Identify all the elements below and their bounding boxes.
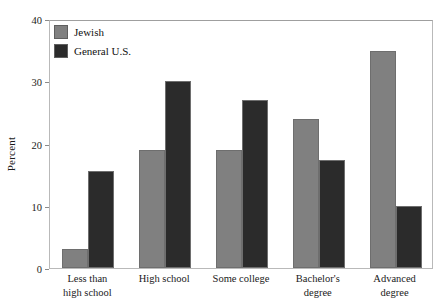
x-axis-category-labels: Less thanhigh schoolHigh schoolSome coll… — [49, 272, 433, 308]
x-axis-category-label: Advanceddegree — [356, 272, 433, 299]
y-axis-tick-label: 0 — [18, 264, 42, 275]
legend-label: General U.S. — [74, 45, 131, 57]
bar-general-us — [396, 206, 422, 268]
bar-general-us — [319, 160, 345, 268]
category-label-line2: high school — [49, 286, 126, 300]
legend-label: Jewish — [74, 26, 104, 38]
bar-jewish — [370, 51, 396, 268]
bar-group — [62, 21, 114, 268]
x-axis-category-label: Bachelor'sdegree — [279, 272, 356, 299]
legend-item: Jewish — [54, 24, 131, 39]
bar-general-us — [88, 171, 114, 268]
chart-legend: JewishGeneral U.S. — [54, 24, 131, 58]
x-axis-category-label: Less thanhigh school — [49, 272, 126, 299]
legend-swatch-icon — [54, 25, 68, 39]
legend-swatch-icon — [54, 44, 68, 58]
category-label-line1: High school — [139, 273, 190, 284]
category-label-line1: Bachelor's — [296, 273, 340, 284]
category-label-line1: Less than — [67, 273, 107, 284]
bar-chart-figure: Percent 010203040 Less thanhigh schoolHi… — [0, 0, 441, 308]
bar-group — [139, 21, 191, 268]
legend-item: General U.S. — [54, 43, 131, 58]
bar-general-us — [165, 81, 191, 268]
bar-group — [370, 21, 422, 268]
y-axis-tick-label: 30 — [18, 77, 42, 88]
x-axis-category-label: High school — [126, 272, 203, 286]
plot-area — [50, 21, 432, 268]
y-axis-tick-mark — [45, 269, 49, 270]
bar-jewish — [62, 249, 88, 268]
category-label-line2: degree — [279, 286, 356, 300]
category-label-line1: Some college — [213, 273, 270, 284]
category-label-line2: degree — [356, 286, 433, 300]
x-axis-category-label: Some college — [203, 272, 280, 286]
y-axis-tick-label: 40 — [18, 15, 42, 26]
y-axis-tick-label: 20 — [18, 139, 42, 150]
bar-jewish — [139, 150, 165, 268]
bar-jewish — [293, 119, 319, 268]
bar-group — [293, 21, 345, 268]
category-label-line1: Advanced — [373, 273, 416, 284]
bar-general-us — [242, 100, 268, 268]
bar-group — [216, 21, 268, 268]
y-axis-tick-labels: 010203040 — [18, 0, 42, 308]
y-axis-tick-label: 10 — [18, 201, 42, 212]
bar-jewish — [216, 150, 242, 268]
